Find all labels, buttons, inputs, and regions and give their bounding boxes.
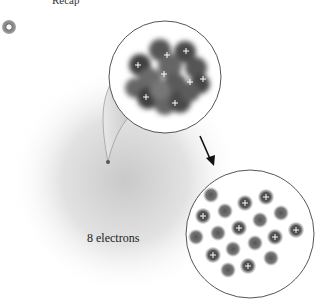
electron-count-label: 8 electrons: [87, 231, 139, 246]
nucleus-dot: [106, 160, 110, 164]
diagram-figure: Recap: [0, 0, 321, 304]
diagram-svg: [0, 0, 321, 304]
